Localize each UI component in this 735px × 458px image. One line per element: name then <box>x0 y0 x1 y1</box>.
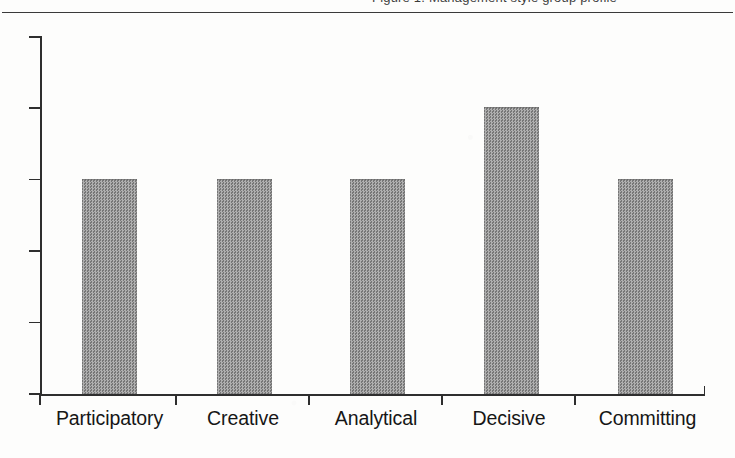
y-axis-line <box>40 36 42 396</box>
bar-top-edge <box>484 107 539 108</box>
bar-top-edge <box>82 179 137 180</box>
y-axis-tick-3 <box>29 179 40 181</box>
x-axis-tick-0 <box>39 395 41 405</box>
bar-creative <box>217 179 272 394</box>
bar-top-edge <box>350 179 405 180</box>
x-axis-tick-5 <box>704 386 706 395</box>
x-axis-tick-4 <box>574 395 576 405</box>
bar-chart: Participatory Creative Analytical Decisi… <box>0 0 735 458</box>
bar-decisive <box>484 107 539 395</box>
y-axis-tick-1 <box>29 322 40 324</box>
scanned-page: Figure 1. Management style group profile <box>0 0 735 458</box>
y-axis-tick-4 <box>29 107 40 109</box>
bar-top-edge <box>217 179 272 180</box>
x-label-decisive: Decisive <box>443 405 575 431</box>
bar-committing <box>618 179 673 394</box>
x-axis-tick-1 <box>175 395 177 405</box>
x-axis-tick-3 <box>441 395 443 405</box>
bar-top-edge <box>618 179 673 180</box>
y-axis-tick-2 <box>29 250 40 252</box>
bar-participatory <box>82 179 137 394</box>
x-axis-line <box>40 394 705 396</box>
y-axis-tick-5 <box>29 36 40 38</box>
x-label-committing: Committing <box>576 405 719 431</box>
x-axis-tick-2 <box>308 395 310 405</box>
x-label-analytical: Analytical <box>310 405 442 431</box>
x-label-creative: Creative <box>177 405 309 431</box>
x-label-participatory: Participatory <box>37 405 182 431</box>
bar-analytical <box>350 179 405 394</box>
